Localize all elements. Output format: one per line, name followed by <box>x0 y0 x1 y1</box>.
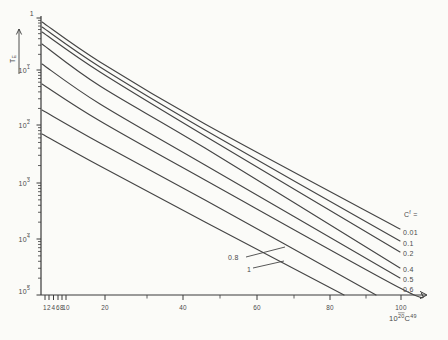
x-tick-label: 2 <box>47 304 51 311</box>
annotation-1: 1 <box>247 266 251 273</box>
legend-item-0.6: 0.6 <box>403 286 414 293</box>
legend: Cf =0.010.10.20.40.50.6 <box>403 209 418 293</box>
y-axis-title-text: TE <box>9 55 18 64</box>
legend-item-0.01: 0.01 <box>403 229 418 236</box>
annotation-0.8: 0.8 <box>228 254 239 261</box>
x-tick-label: 80 <box>326 304 334 311</box>
y-tick-label: 1 <box>30 10 34 17</box>
x-tick-label: 40 <box>179 304 187 311</box>
legend-item-0.1: 0.1 <box>403 240 414 247</box>
x-tick-label: 60 <box>253 304 261 311</box>
annotation-leader-0.8 <box>246 247 285 257</box>
legend-item-0.5: 0.5 <box>403 276 414 283</box>
y-ticks: 1101102103104105 <box>19 10 42 295</box>
x-tick-label: 10 <box>62 304 70 311</box>
curve-cf-0.2 <box>42 32 400 252</box>
legend-title: Cf = <box>404 209 418 218</box>
y-tick-label: 101 <box>19 64 31 73</box>
y-axis-title: TE <box>9 55 18 64</box>
x-axis-unit-label: 1020C49 <box>389 313 417 323</box>
y-tick-label: 102 <box>19 119 31 128</box>
curve-cf-0.01 <box>42 22 400 229</box>
x-ticks: 1246810204060801001020C49 <box>43 295 417 323</box>
x-tick-label: 20 <box>101 304 109 311</box>
legend-item-0.2: 0.2 <box>403 250 414 257</box>
x-tick-label: 4 <box>52 304 56 311</box>
y-tick-label: 103 <box>19 177 31 186</box>
curve-cf-0.4 <box>42 44 400 268</box>
annotation-leader-1 <box>253 261 284 268</box>
curve-cf-0.5 <box>42 64 400 278</box>
y-tick-label: 104 <box>19 233 31 242</box>
y-tick-label: 105 <box>19 285 31 294</box>
legend-item-0.4: 0.4 <box>403 266 414 273</box>
x-tick-label: 100 <box>395 304 407 311</box>
chart-svg: 1101102103104105TE1246810204060801001020… <box>0 0 448 340</box>
figure: 1101102103104105TE1246810204060801001020… <box>0 0 448 340</box>
curve-cf-0.6 <box>42 84 423 298</box>
